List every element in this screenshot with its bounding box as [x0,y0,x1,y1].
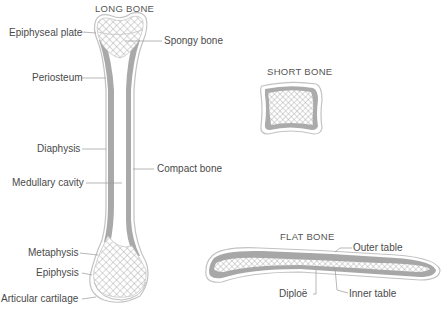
label-metaphysis: Metaphysis [28,247,79,259]
label-diaphysis: Diaphysis [37,143,80,155]
label-medullary-cavity: Medullary cavity [12,177,84,189]
label-spongy-bone: Spongy bone [164,35,223,47]
label-articular-cartilage: Articular cartilage [1,293,78,305]
bone-diagram [0,0,448,310]
label-inner-table: Inner table [349,288,396,300]
title-flat-bone: FLAT BONE [280,231,335,242]
title-long-bone: LONG BONE [95,3,154,14]
label-periosteum: Periosteum [32,72,83,84]
long-bone [90,13,148,303]
short-bone [261,82,322,134]
label-epiphyseal-plate: Epiphyseal plate [9,27,82,39]
flat-bone [206,248,440,283]
title-short-bone: SHORT BONE [267,66,332,77]
label-diploe: Diploë [279,288,307,300]
label-epiphysis: Epiphysis [36,267,79,279]
label-outer-table: Outer table [353,242,402,254]
label-compact-bone: Compact bone [157,163,222,175]
